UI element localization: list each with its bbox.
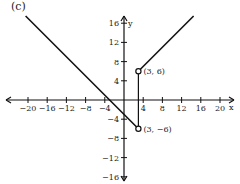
x-tick-label: 4 bbox=[141, 104, 146, 113]
point-label: (3, 6) bbox=[143, 67, 165, 76]
open-circle-point bbox=[136, 126, 141, 131]
y-tick-label: −12 bbox=[102, 154, 119, 163]
x-tick-label: −8 bbox=[80, 104, 92, 113]
x-axis-label: x bbox=[229, 103, 234, 112]
x-tick-label: 8 bbox=[160, 104, 165, 113]
y-tick-label: −16 bbox=[102, 173, 119, 182]
series-line-right bbox=[138, 16, 193, 71]
x-tick-label: 16 bbox=[196, 104, 206, 113]
piecewise-graph: xy−20−16−12−8−448121620161284−4−8−12−16(… bbox=[0, 0, 240, 184]
x-tick-label: −20 bbox=[20, 104, 37, 113]
x-tick-label: 12 bbox=[177, 104, 187, 113]
y-tick-label: 12 bbox=[109, 38, 119, 47]
x-tick-label: −12 bbox=[58, 104, 75, 113]
y-tick-label: 16 bbox=[109, 19, 119, 28]
y-tick-label: −8 bbox=[107, 134, 119, 143]
x-tick-label: −16 bbox=[39, 104, 56, 113]
y-tick-label: 4 bbox=[114, 77, 119, 86]
y-tick-label: −4 bbox=[107, 115, 119, 124]
x-tick-label: −4 bbox=[99, 104, 111, 113]
open-circle-point bbox=[136, 69, 141, 74]
y-axis-label: y bbox=[127, 19, 133, 28]
y-tick-label: 8 bbox=[114, 58, 119, 67]
x-tick-label: 20 bbox=[215, 104, 225, 113]
point-label: (3, −6) bbox=[143, 125, 171, 134]
